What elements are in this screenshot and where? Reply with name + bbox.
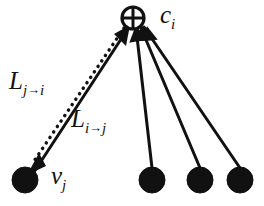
edge-label-L-j-to-i-base: L (9, 67, 23, 94)
edge-label-L-i-to-j: Li→j (71, 106, 106, 131)
edge-i-to-j (34, 25, 130, 172)
edge-j-to-i-line (32, 28, 124, 164)
node-v-3[interactable] (187, 167, 213, 193)
node-v-j[interactable] (12, 167, 38, 193)
edge-group-plain (136, 27, 240, 168)
node-label-c-i-sub: i (171, 16, 175, 32)
node-label-v-j: vj (51, 163, 66, 188)
edge-i-to-j-line (34, 30, 127, 172)
node-label-v-j-base: v (51, 162, 62, 189)
edge-label-L-i-to-j-base: L (71, 105, 85, 132)
edge-label-L-i-to-j-sub-to: j (102, 120, 106, 136)
node-v-4[interactable] (227, 167, 253, 193)
diagram-canvas: ci vj Lj→i Li→j (0, 0, 264, 206)
node-v-2[interactable] (139, 167, 165, 193)
right-arrow-icon: → (89, 120, 102, 135)
node-c-i[interactable] (122, 7, 144, 29)
node-label-c-i: ci (160, 2, 175, 27)
node-label-c-i-base: c (160, 1, 171, 28)
edge-label-L-j-to-i: Lj→i (9, 68, 44, 93)
edge-label-L-j-to-i-sub-to: i (40, 82, 44, 98)
diagram-svg (0, 0, 264, 206)
right-arrow-icon: → (27, 82, 40, 97)
node-label-v-j-sub: j (62, 177, 66, 193)
variable-node-group (12, 167, 253, 193)
edge-j-to-i (27, 28, 124, 175)
